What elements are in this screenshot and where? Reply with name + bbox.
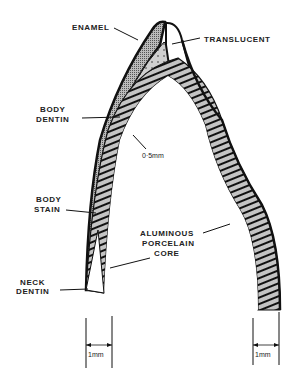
dimension-left-label: 1mm [88,351,104,358]
label-aluminous-2: PORCELAIN [142,239,195,248]
label-aluminous-3: CORE [154,249,180,258]
leader-enamel [114,28,138,40]
leader-aluminous-right [203,224,230,233]
crown-diagram: ENAMEL TRANSLUCENT BODY DENTIN 0·5mm BOD… [0,0,299,382]
leader-aluminous-left [110,258,150,268]
label-body-stain-2: STAIN [34,205,60,214]
label-core-thickness: 0·5mm [142,152,164,159]
label-aluminous-1: ALUMINOUS [140,229,194,238]
label-enamel: ENAMEL [72,23,109,32]
label-neck-dentin-1: NECK [20,278,45,287]
label-body-dentin-1: BODY [40,105,66,114]
label-translucent: TRANSLUCENT [204,35,271,44]
label-neck-dentin-2: DENTIN [16,287,49,296]
leader-core-thickness [133,135,146,149]
leader-neck-dentin [60,289,88,290]
label-body-dentin-2: DENTIN [36,115,69,124]
dimension-right-label: 1mm [255,351,271,358]
dimension-right: 1mm [253,312,279,365]
label-body-stain-1: BODY [36,195,62,204]
dimension-left: 1mm [86,316,112,368]
